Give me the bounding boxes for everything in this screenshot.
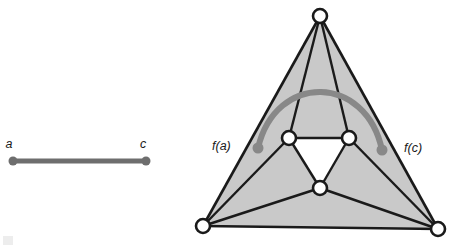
- vertex-inner-right: [342, 131, 356, 145]
- vertex-inner-left: [282, 131, 296, 145]
- vertex-bottom-right: [431, 222, 445, 236]
- segment-endpoint-a: [9, 157, 18, 166]
- arc-endpoint-f-c: [377, 145, 388, 156]
- label-c: c: [140, 137, 147, 151]
- segment-endpoint-c: [142, 157, 151, 166]
- label-a: a: [6, 137, 13, 151]
- right-panel-triangulation: f(a) f(c): [196, 9, 445, 236]
- vertex-inner-bottom: [313, 181, 327, 195]
- shaded-face-region: [203, 16, 438, 229]
- page-corner-artifact: [3, 236, 13, 245]
- figure-page: a c: [0, 0, 453, 247]
- arc-endpoint-f-a: [253, 143, 264, 154]
- vertex-bottom-left: [196, 219, 210, 233]
- label-f-of-a: f(a): [212, 139, 231, 153]
- figure-canvas: a c: [0, 0, 453, 247]
- label-f-of-c: f(c): [404, 141, 422, 155]
- vertex-top: [313, 9, 327, 23]
- left-panel-segment-ac: a c: [6, 137, 151, 166]
